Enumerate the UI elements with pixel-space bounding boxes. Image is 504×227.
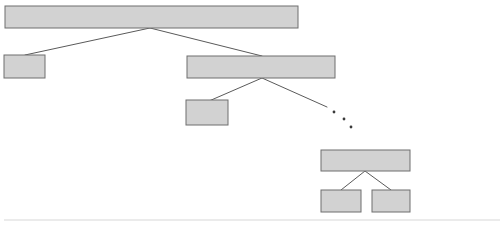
ellipsis-dot-3 xyxy=(350,126,353,129)
node-group xyxy=(4,6,410,212)
tree-node-grandchild[interactable] xyxy=(186,100,228,125)
edge-child-right-to-grandchild xyxy=(209,78,262,101)
edge-root-to-child-right xyxy=(150,28,262,56)
ellipsis-dot-1 xyxy=(333,111,336,114)
edge-child-right-to-ellipsis xyxy=(262,78,327,107)
tree-diagram xyxy=(0,0,504,227)
tree-node-deep-parent[interactable] xyxy=(321,150,410,171)
tree-node-deep-right[interactable] xyxy=(372,190,410,212)
tree-node-root[interactable] xyxy=(5,6,298,28)
tree-diagram-canvas xyxy=(0,0,504,227)
edge-root-to-child-left xyxy=(25,28,150,55)
edge-deep-parent-to-deep-left xyxy=(341,171,365,190)
edge-deep-parent-to-deep-right xyxy=(365,171,391,190)
ellipsis-icon xyxy=(333,111,353,129)
ellipsis-dot-2 xyxy=(343,118,346,121)
tree-node-deep-left[interactable] xyxy=(321,190,361,212)
tree-node-child-left[interactable] xyxy=(4,55,45,78)
tree-node-child-right[interactable] xyxy=(187,56,335,78)
